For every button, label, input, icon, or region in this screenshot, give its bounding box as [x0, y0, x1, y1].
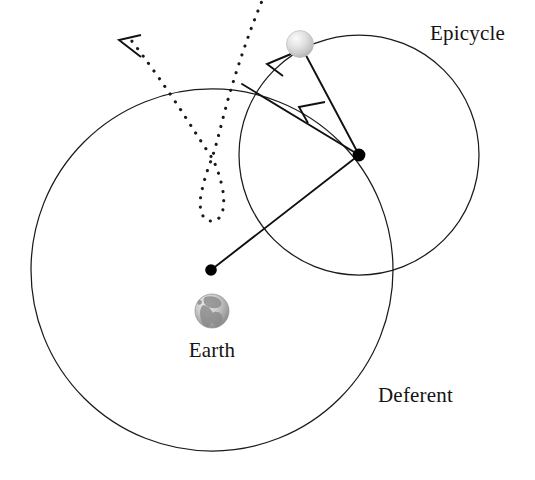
earth-label: Earth	[189, 338, 236, 362]
planet-sphere	[287, 31, 314, 58]
epicycle-radius-line	[301, 46, 359, 155]
deferent-label: Deferent	[378, 383, 453, 407]
earth-sphere	[195, 294, 229, 330]
epicycle-deferent-diagram: Epicycle Deferent Earth	[0, 0, 535, 480]
diagram-canvas: Epicycle Deferent Earth	[0, 0, 535, 480]
retrograde-arrowhead	[119, 35, 141, 57]
deferent-radius-line	[211, 155, 359, 270]
earth-center-dot	[205, 264, 217, 276]
retrograde-loop-path	[131, 0, 265, 221]
sight-line	[242, 84, 359, 155]
epicycle-center-dot	[353, 149, 366, 162]
epicycle-label: Epicycle	[430, 21, 505, 45]
